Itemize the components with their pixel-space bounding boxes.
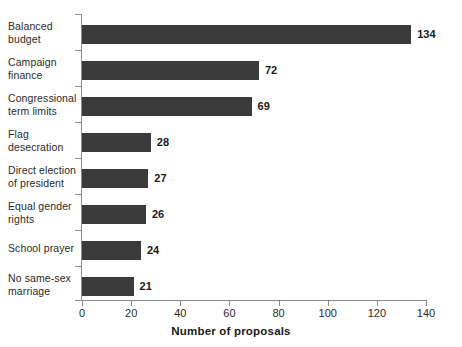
category-label-campaign-finance: Campaign finance [8, 56, 80, 81]
category-label-line: Balanced [8, 20, 80, 33]
category-label-line: of president [8, 177, 80, 190]
category-label-no-same-sex-marriage: No same-sex marriage [8, 272, 80, 297]
bar-value-congressional-term-limits: 69 [258, 97, 270, 116]
y-axis-tick [75, 50, 82, 51]
x-axis-tick-label: 120 [368, 307, 386, 319]
x-axis-tick [377, 300, 378, 306]
y-axis-tick [75, 122, 82, 123]
category-label-line: Campaign [8, 56, 80, 69]
category-label-line: marriage [8, 285, 80, 298]
category-label-line: School prayer [8, 242, 80, 255]
category-label-line: Congressional [8, 92, 80, 105]
bar-no-same-sex-marriage [82, 277, 134, 296]
x-axis-tick-label: 80 [272, 307, 284, 319]
y-axis-tick [75, 158, 82, 159]
y-axis-tick [75, 230, 82, 231]
category-label-line: finance [8, 69, 80, 82]
bar-balanced-budget [82, 25, 411, 44]
category-label-line: term limits [8, 105, 80, 118]
bar-chart: Balanced budget Campaign finance Congres… [0, 0, 462, 347]
category-label-line: Direct election [8, 164, 80, 177]
category-label-line: Equal gender [8, 200, 80, 213]
bar-value-flag-desecration: 28 [157, 133, 169, 152]
bar-direct-election-of-president [82, 169, 148, 188]
category-label-school-prayer: School prayer [8, 242, 80, 255]
bar-campaign-finance [82, 61, 259, 80]
x-axis-tick [82, 300, 83, 306]
category-label-line: budget [8, 33, 80, 46]
x-axis-tick-label: 60 [223, 307, 235, 319]
category-label-equal-gender-rights: Equal gender rights [8, 200, 80, 225]
x-axis-tick [180, 300, 181, 306]
category-label-line: Flag [8, 128, 80, 141]
y-axis-tick [75, 86, 82, 87]
bar-value-campaign-finance: 72 [265, 61, 277, 80]
x-axis-tick [328, 300, 329, 306]
bar-school-prayer [82, 241, 141, 260]
bar-value-balanced-budget: 134 [417, 25, 435, 44]
category-label-congressional-term-limits: Congressional term limits [8, 92, 80, 117]
y-axis-tick [75, 194, 82, 195]
bar-congressional-term-limits [82, 97, 252, 116]
category-label-line: No same-sex [8, 272, 80, 285]
x-axis-tick [131, 300, 132, 306]
y-axis-tick [75, 266, 82, 267]
x-axis-tick [279, 300, 280, 306]
bar-value-school-prayer: 24 [147, 241, 159, 260]
y-axis-tick [75, 14, 82, 15]
category-label-line: rights [8, 213, 80, 226]
x-axis-tick-label: 140 [417, 307, 435, 319]
x-axis-title: Number of proposals [0, 325, 462, 337]
x-axis-line [81, 300, 427, 301]
x-axis-tick [229, 300, 230, 306]
x-axis-tick-label: 0 [79, 307, 85, 319]
category-axis-labels: Balanced budget Campaign finance Congres… [0, 0, 78, 300]
x-axis-tick-label: 40 [174, 307, 186, 319]
bar-value-no-same-sex-marriage: 21 [140, 277, 152, 296]
category-label-balanced-budget: Balanced budget [8, 20, 80, 45]
category-label-direct-election-of-president: Direct election of president [8, 164, 80, 189]
category-label-flag-desecration: Flag desecration [8, 128, 80, 153]
bar-equal-gender-rights [82, 205, 146, 224]
plot-area: 134 72 69 28 27 26 24 21 [82, 14, 426, 300]
x-axis-tick-label: 100 [319, 307, 337, 319]
x-axis-tick-label: 20 [125, 307, 137, 319]
bar-flag-desecration [82, 133, 151, 152]
bar-value-direct-election-of-president: 27 [154, 169, 166, 188]
x-axis-tick [426, 300, 427, 306]
category-label-line: desecration [8, 141, 80, 154]
bar-value-equal-gender-rights: 26 [152, 205, 164, 224]
